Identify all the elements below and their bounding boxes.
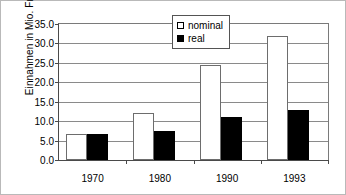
bar-nominal-1970 xyxy=(66,134,87,160)
y-tick-label: 20.0 xyxy=(35,77,54,88)
y-tick-mark xyxy=(55,121,59,122)
y-tick-label: 25.0 xyxy=(35,57,54,68)
y-tick-mark xyxy=(55,141,59,142)
chart-legend: nominalreal xyxy=(172,15,230,49)
y-tick-label: 35.0 xyxy=(35,19,54,30)
bar-real-1980 xyxy=(154,131,175,160)
y-tick-label: 0.0 xyxy=(40,155,54,166)
legend-label-real: real xyxy=(188,33,205,44)
x-tick-mark xyxy=(328,160,329,164)
bar-nominal-1993 xyxy=(267,36,288,160)
y-tick-mark xyxy=(55,82,59,83)
bar-real-1970 xyxy=(87,134,108,160)
y-axis-title: Einnahmen in Mio. Fr. xyxy=(24,0,35,126)
legend-swatch-icon-nominal xyxy=(177,22,184,29)
legend-item-real: real xyxy=(177,32,223,45)
x-tick-mark xyxy=(194,160,195,164)
bar-real-1993 xyxy=(288,110,309,161)
x-tick-mark xyxy=(126,160,127,164)
legend-label-nominal: nominal xyxy=(188,20,223,31)
y-tick-mark xyxy=(55,24,59,25)
bar-nominal-1980 xyxy=(133,113,154,160)
y-tick-label: 15.0 xyxy=(35,96,54,107)
y-tick-mark xyxy=(55,160,59,161)
y-tick-label: 5.0 xyxy=(40,135,54,146)
y-tick-label: 30.0 xyxy=(35,38,54,49)
x-category-label-1993: 1993 xyxy=(283,173,305,184)
y-tick-mark xyxy=(55,43,59,44)
y-tick-mark xyxy=(55,102,59,103)
legend-item-nominal: nominal xyxy=(177,19,223,32)
bar-nominal-1990 xyxy=(200,65,221,160)
x-category-label-1980: 1980 xyxy=(149,173,171,184)
y-tick-mark xyxy=(55,63,59,64)
bar-chart-figure: Einnahmen in Mio. Fr. 0.05.010.015.020.0… xyxy=(0,0,346,195)
x-category-label-1990: 1990 xyxy=(216,173,238,184)
x-tick-mark xyxy=(261,160,262,164)
x-category-label-1970: 1970 xyxy=(82,173,104,184)
bar-real-1990 xyxy=(221,117,242,160)
legend-swatch-icon-real xyxy=(177,35,184,42)
y-tick-label: 10.0 xyxy=(35,116,54,127)
